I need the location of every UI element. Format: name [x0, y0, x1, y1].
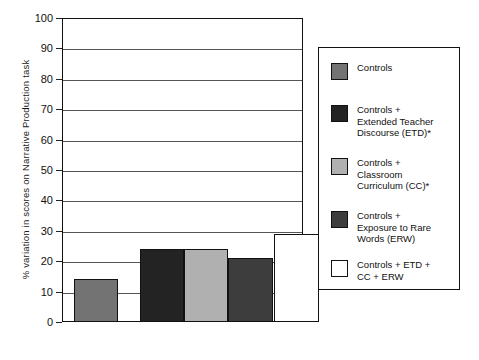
y-tick-label: 90 [41, 43, 53, 54]
y-tick-label: 20 [41, 256, 53, 267]
legend-item[interactable]: Controls + Extended Teacher Discourse (E… [331, 104, 433, 139]
legend-item[interactable]: Controls + ETD + CC + ERW [331, 259, 430, 282]
legend-swatch [331, 211, 348, 228]
legend-swatch [331, 105, 348, 122]
y-tick-label: 30 [41, 225, 53, 236]
bar [140, 249, 184, 322]
legend-item[interactable]: Controls + Classroom Curriculum (CC)* [331, 157, 429, 192]
legend-item[interactable]: Controls + Exposure to Rare Words (ERW) [331, 210, 431, 245]
legend-item-label: Controls + Exposure to Rare Words (ERW) [357, 210, 431, 245]
y-tick-label: 60 [41, 134, 53, 145]
bar-chart: % variation in scores on Narrative Produ… [0, 0, 479, 360]
y-tick-label: 70 [41, 104, 53, 115]
bar [184, 249, 228, 322]
legend-item[interactable]: Controls [331, 62, 392, 80]
y-tick-mark [56, 322, 62, 323]
y-tick-label: 50 [41, 165, 53, 176]
legend-item-label: Controls + Classroom Curriculum (CC)* [357, 157, 429, 192]
y-tick-label: 100 [35, 13, 53, 24]
legend-item-label: Controls + ETD + CC + ERW [357, 259, 430, 282]
bar [228, 258, 273, 322]
y-tick-label: 0 [47, 317, 53, 328]
bar [274, 234, 319, 322]
bar-series [62, 18, 303, 322]
legend: ControlsControls + Extended Teacher Disc… [318, 47, 460, 290]
y-axis-ticks: 1009080706050403020100 [0, 0, 62, 360]
legend-swatch [331, 260, 348, 277]
y-tick-label: 40 [41, 195, 53, 206]
legend-swatch [331, 158, 348, 175]
y-tick-label: 10 [41, 286, 53, 297]
legend-swatch [331, 63, 348, 80]
y-tick-label: 80 [41, 73, 53, 84]
legend-item-label: Controls [357, 62, 392, 74]
bar [74, 279, 118, 322]
legend-item-label: Controls + Extended Teacher Discourse (E… [357, 104, 433, 139]
